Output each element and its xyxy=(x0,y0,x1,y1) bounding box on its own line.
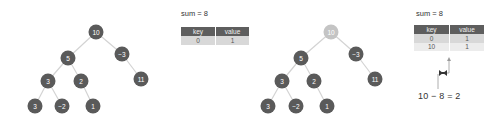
cell-value: 1 xyxy=(216,36,250,45)
tree-after: 105−332113−21 xyxy=(261,25,383,114)
cell-key: 10 xyxy=(414,43,450,52)
tree-node: 3 xyxy=(275,74,290,89)
cell-value: 1 xyxy=(450,43,485,52)
node-label: 3 xyxy=(280,78,284,85)
tree-node: 5 xyxy=(294,51,309,66)
column-header-key: key xyxy=(181,27,216,36)
tree-node: 1 xyxy=(86,99,101,114)
table-row: 0 1 xyxy=(181,36,249,45)
tree-node: 1 xyxy=(320,99,335,114)
column-header-value: value xyxy=(216,27,250,36)
tree-node: 10 xyxy=(324,25,339,40)
table-row: 0 1 xyxy=(414,34,484,43)
node-label: −3 xyxy=(118,51,126,58)
node-label: 10 xyxy=(92,29,100,36)
tree-before: 105−332113−21 xyxy=(28,25,149,114)
tree-node: 11 xyxy=(134,72,149,87)
sum-label-1: sum = 8 xyxy=(181,9,208,18)
difference-formula: 10 − 8 = 2 xyxy=(418,91,461,101)
tree-node: 3 xyxy=(41,74,56,89)
cell-key: 0 xyxy=(414,34,450,43)
tree-node: −2 xyxy=(289,99,304,114)
tree-node: 2 xyxy=(74,74,89,89)
tree-node: −2 xyxy=(55,99,70,114)
sum-label-2: sum = 8 xyxy=(416,9,443,18)
hashmap-table-2: key value 0 1 10 1 xyxy=(414,25,484,51)
node-label: 3 xyxy=(33,103,37,110)
tree-node: 10 xyxy=(89,25,104,40)
column-header-value: value xyxy=(450,25,485,34)
node-label: 3 xyxy=(46,78,50,85)
node-label: 10 xyxy=(327,29,335,36)
tree-node: −3 xyxy=(349,47,364,62)
diagram-canvas: 105−332113−21 105−332113−21 xyxy=(0,0,504,123)
tree-node: 5 xyxy=(61,51,76,66)
tree-node: 11 xyxy=(368,72,383,87)
node-label: −2 xyxy=(292,103,300,110)
column-header-key: key xyxy=(414,25,450,34)
node-label: 11 xyxy=(372,76,379,83)
cell-key: 0 xyxy=(181,36,216,45)
node-label: 5 xyxy=(299,55,303,62)
tree-node: 3 xyxy=(261,99,276,114)
node-label: 3 xyxy=(266,103,270,110)
node-label: 1 xyxy=(325,103,329,110)
tree-node: −3 xyxy=(115,47,130,62)
tree-node: 2 xyxy=(307,74,322,89)
node-label: 2 xyxy=(79,78,83,85)
node-label: −2 xyxy=(58,103,66,110)
hashmap-table-1: key value 0 1 xyxy=(181,27,249,45)
arrowhead-icon xyxy=(447,57,451,61)
cell-value: 1 xyxy=(450,34,485,43)
table-row: 10 1 xyxy=(414,43,484,52)
node-label: 1 xyxy=(91,103,95,110)
tree-node: 3 xyxy=(28,99,43,114)
node-label: 11 xyxy=(138,76,145,83)
node-label: 5 xyxy=(66,55,70,62)
node-label: −3 xyxy=(352,51,360,58)
node-label: 2 xyxy=(312,78,316,85)
bowtie-icon xyxy=(439,70,447,76)
